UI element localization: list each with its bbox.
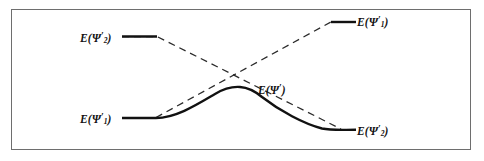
energy-label-psi2-reactant: E(Ψ′2) bbox=[80, 32, 111, 45]
label-prefix-E: E( bbox=[357, 16, 369, 28]
label-suffix-paren: ) bbox=[107, 113, 111, 125]
energy-label-psi1-reactant: E(Ψ′1) bbox=[80, 113, 111, 126]
label-prefix-E: E( bbox=[357, 125, 369, 137]
correlation-diagram-svg bbox=[0, 0, 484, 161]
label-suffix-paren: ) bbox=[384, 16, 388, 28]
label-prefix-E: E( bbox=[258, 84, 270, 96]
psi-symbol: Ψ bbox=[369, 125, 378, 137]
dashed-correlation-line-ascending bbox=[156, 22, 356, 118]
label-prefix-E: E( bbox=[80, 32, 92, 44]
psi-symbol: Ψ bbox=[92, 113, 101, 125]
solid-reaction-coordinate-curve bbox=[122, 87, 356, 130]
label-prefix-E: E( bbox=[80, 113, 92, 125]
psi-symbol: Ψ bbox=[270, 84, 279, 96]
psi-symbol: Ψ bbox=[92, 32, 101, 44]
energy-label-psi1-product: E(Ψ′1) bbox=[357, 16, 388, 29]
label-suffix-paren: ) bbox=[282, 84, 286, 96]
label-suffix-paren: ) bbox=[107, 32, 111, 44]
energy-label-transition-state: E(Ψ′) bbox=[258, 84, 286, 96]
label-suffix-paren: ) bbox=[384, 125, 388, 137]
dashed-correlation-line-descending bbox=[122, 37, 341, 130]
energy-label-psi2-product: E(Ψ′2) bbox=[357, 125, 388, 138]
figure-root: E(Ψ′2) E(Ψ′1) E(Ψ′1) E(Ψ′2) E(Ψ′) bbox=[0, 0, 484, 161]
psi-symbol: Ψ bbox=[369, 16, 378, 28]
